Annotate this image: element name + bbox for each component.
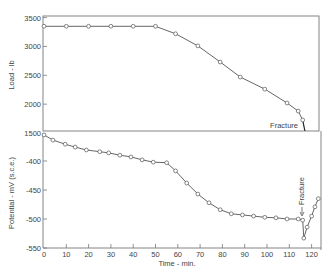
y-tick-label: 2500 — [24, 71, 41, 80]
potential-marker — [301, 218, 305, 222]
load-marker — [296, 109, 300, 113]
potential-marker — [310, 214, 314, 218]
x-tick-label: 40 — [129, 250, 137, 259]
potential-marker — [165, 161, 169, 165]
y-tick-label: 1500 — [24, 129, 41, 138]
potential-marker — [305, 225, 309, 229]
potential-marker — [174, 169, 178, 173]
x-tick-label: 30 — [107, 250, 115, 259]
potential-marker — [252, 214, 256, 218]
potential-marker — [218, 208, 222, 212]
load-marker — [154, 24, 158, 28]
fracture-annotation-bottom: Fracture — [297, 177, 306, 205]
axis-ticks: 15002000250030003500-400-450-500-5500102… — [24, 14, 318, 259]
potential-marker — [63, 142, 67, 146]
potential-marker — [98, 150, 102, 154]
potential-marker — [313, 205, 317, 209]
potential-marker — [229, 212, 233, 216]
data-lines — [44, 26, 318, 238]
x-axis-label: Time - min. — [158, 259, 195, 268]
y-tick-label: -550 — [26, 244, 41, 253]
x-tick-label: 60 — [174, 250, 182, 259]
x-tick-label: 70 — [196, 250, 204, 259]
y-tick-label: -500 — [26, 215, 41, 224]
x-tick-label: 90 — [241, 250, 249, 259]
load-marker — [301, 118, 305, 122]
potential-marker — [263, 215, 267, 219]
data-markers — [42, 24, 320, 240]
potential-marker — [73, 145, 77, 149]
potential-marker — [42, 133, 46, 137]
load-line — [44, 26, 303, 120]
potential-marker — [316, 197, 320, 201]
y-tick-label: 3500 — [24, 14, 41, 23]
load-marker — [131, 24, 135, 28]
load-marker — [285, 101, 289, 105]
potential-marker — [140, 158, 144, 162]
x-tick-label: 110 — [283, 250, 295, 259]
y-tick-label: 3000 — [24, 42, 41, 51]
axes-frames — [43, 16, 321, 250]
load-marker — [109, 24, 113, 28]
figure: 15002000250030003500-400-450-500-5500102… — [0, 0, 334, 268]
x-tick-label: 80 — [218, 250, 226, 259]
x-tick-label: 10 — [62, 250, 70, 259]
load-marker — [42, 24, 46, 28]
potential-marker — [129, 155, 133, 159]
load-marker — [218, 60, 222, 64]
top-chart-frame — [43, 16, 319, 131]
x-tick-label: 120 — [305, 250, 318, 259]
load-marker — [238, 75, 242, 79]
x-tick-label: 50 — [151, 250, 159, 259]
load-marker — [87, 24, 91, 28]
potential-marker — [296, 217, 300, 221]
x-tick-label: 100 — [261, 250, 274, 259]
load-marker — [263, 87, 267, 91]
x-tick-label: 0 — [42, 250, 46, 259]
potential-marker — [51, 138, 55, 142]
x-tick-label: 20 — [84, 250, 92, 259]
y-tick-label: -400 — [26, 157, 41, 166]
top-y-axis-label: Load - lb — [7, 60, 16, 89]
fracture-annotation-top: Fracture — [270, 121, 298, 130]
potential-marker — [185, 181, 189, 185]
potential-marker — [107, 151, 111, 155]
potential-marker — [285, 217, 289, 221]
potential-marker — [118, 153, 122, 157]
load-marker — [174, 32, 178, 36]
potential-marker — [196, 192, 200, 196]
potential-marker — [84, 148, 88, 152]
load-marker — [64, 24, 68, 28]
bottom-y-axis-label: Potential - mV (s.c.e.) — [7, 156, 16, 229]
potential-marker — [302, 236, 306, 240]
y-tick-label: 2000 — [24, 100, 41, 109]
potential-marker — [151, 160, 155, 164]
axis-labels: Load - lb Potential - mV (s.c.e.) Time -… — [7, 60, 306, 268]
y-tick-label: -450 — [26, 186, 41, 195]
load-marker — [196, 44, 200, 48]
potential-marker — [241, 213, 245, 217]
potential-marker — [207, 201, 211, 205]
potential-marker — [274, 216, 278, 220]
